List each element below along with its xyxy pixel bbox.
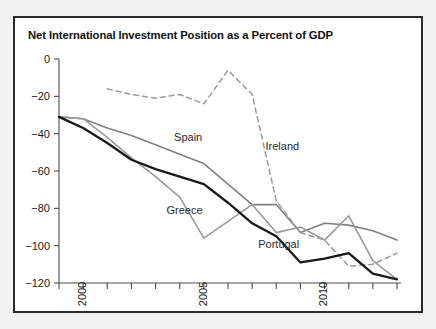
y-tick-label: −60 (31, 165, 50, 177)
data-series-group (59, 70, 397, 279)
x-tick-label: 2000 (76, 282, 88, 306)
y-tick-label: −20 (31, 90, 50, 102)
line-chart-plot: 0−20−40−60−80−100−120200020052010 SpainI… (15, 18, 421, 311)
series-label-spain: Spain (174, 131, 202, 143)
y-tick-label: −120 (25, 277, 50, 289)
axes: 0−20−40−60−80−100−120200020052010 (25, 53, 401, 306)
y-tick-label: −100 (25, 240, 50, 252)
series-line-portugal (59, 117, 397, 279)
series-label-portugal: Portugal (258, 238, 299, 250)
chart-frame: Net International Investment Position as… (13, 16, 423, 313)
y-tick-label: −40 (31, 128, 50, 140)
y-tick-label: −80 (31, 202, 50, 214)
series-line-greece (59, 117, 397, 279)
x-tick-label: 2010 (317, 282, 329, 306)
x-tick-label: 2005 (197, 282, 209, 306)
y-tick-label: 0 (44, 53, 50, 65)
series-label-ireland: Ireland (266, 140, 300, 152)
series-label-greece: Greece (167, 204, 203, 216)
x-tick-label-group: 2010 (317, 282, 329, 306)
x-tick-label-group: 2000 (76, 282, 88, 306)
x-tick-label-group: 2005 (197, 282, 209, 306)
